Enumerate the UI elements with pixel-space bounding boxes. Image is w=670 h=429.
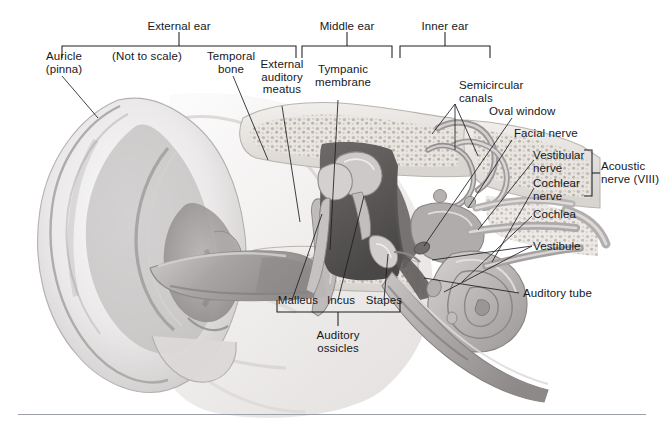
region-bracket-inner-ear (400, 32, 490, 58)
label-oval-window: Oval window (489, 105, 555, 118)
region-label-middle-ear: Middle ear (309, 20, 385, 33)
label-auricle-pinna: Auricle (pinna) (36, 50, 92, 75)
label-cochlear-nerve: Cochlear nerve (533, 177, 580, 202)
label-temporal-bone: Temporal bone (200, 50, 262, 75)
label-stapes: Stapes (362, 294, 406, 307)
footer-divider (18, 414, 646, 415)
label-auditory-tube: Auditory tube (523, 287, 592, 300)
label-vestibular-nerve: Vestibular nerve (533, 149, 585, 174)
label-malleus: Malleus (274, 294, 322, 307)
ear-anatomy-figure: External ear Middle ear Inner ear Auricl… (0, 0, 670, 429)
label-auditory-ossicles: Auditory ossicles (304, 329, 372, 354)
region-label-external-ear: External ear (139, 20, 219, 33)
region-bracket-middle-ear (302, 32, 392, 58)
label-tympanic-membrane: Tympanic membrane (310, 63, 376, 88)
label-vestibule: Vestibule (533, 240, 581, 253)
label-not-to-scale: (Not to scale) (104, 50, 190, 63)
label-facial-nerve: Facial nerve (514, 127, 578, 140)
label-external-auditory-meatus: External auditory meatus (254, 58, 310, 96)
region-label-inner-ear: Inner ear (409, 20, 481, 33)
label-semicircular-canals: Semicircular canals (459, 79, 545, 104)
label-incus: Incus (322, 294, 360, 307)
label-cochlea: Cochlea (533, 208, 576, 221)
label-acoustic-nerve: Acoustic nerve (VIII) (601, 160, 659, 185)
